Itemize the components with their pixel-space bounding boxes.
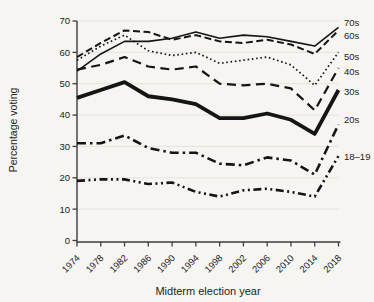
series-line-30s [77,82,339,134]
x-axis-title: Midterm election year [155,285,260,297]
y-tick-label-30: 30 [59,141,70,152]
x-tick-label-2010: 2010 [274,253,296,275]
y-axis-title: Percentage voting [7,88,19,173]
series-label-50s: 50s [344,51,360,62]
y-tick-label-50: 50 [59,78,70,89]
x-tick-label-1998: 1998 [203,253,225,275]
x-tick-label-1990: 1990 [155,253,177,275]
series-line-18–19 [77,156,339,197]
x-tick-label-2006: 2006 [250,253,272,275]
x-tick-label-1994: 1994 [179,253,201,275]
series-line-20s [77,124,339,174]
midterm-voting-chart: 0102030405060701974197819821986199019941… [0,0,374,302]
x-tick-label-1982: 1982 [108,253,130,275]
series-label-30s: 30s [344,86,360,97]
chart-canvas: 0102030405060701974197819821986199019941… [0,0,374,302]
series-label-20s: 20s [344,114,360,125]
y-tick-label-70: 70 [59,15,70,26]
y-tick-label-0: 0 [65,235,70,246]
series-label-18–19: 18–19 [344,151,370,162]
y-tick-label-10: 10 [59,204,70,215]
series-label-60s: 60s [344,30,360,41]
series-label-70s: 70s [344,17,360,28]
x-tick-label-1986: 1986 [132,253,154,275]
x-tick-label-2014: 2014 [298,253,320,275]
x-tick-label-1974: 1974 [60,253,82,275]
y-tick-label-20: 20 [59,172,70,183]
x-tick-label-2018: 2018 [322,253,344,275]
x-tick-label-2002: 2002 [227,253,249,275]
x-tick-label-1978: 1978 [84,253,106,275]
y-tick-label-40: 40 [59,109,70,120]
y-tick-label-60: 60 [59,47,70,58]
series-label-40s: 40s [344,66,360,77]
